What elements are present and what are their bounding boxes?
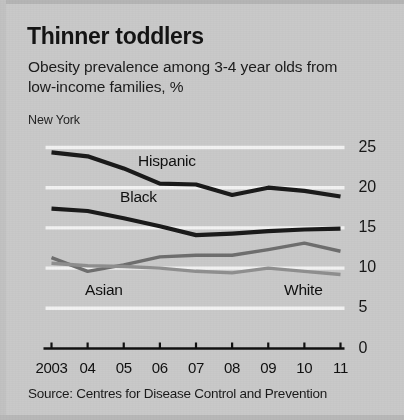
series-line-hispanic — [52, 152, 341, 196]
y-axis-tick-label: 0 — [359, 339, 368, 357]
chart-source: Source: Centres for Disease Control and … — [28, 386, 327, 401]
y-axis-tick-label: 10 — [359, 258, 376, 276]
series-line-black — [52, 209, 341, 236]
infographic-figure: Thinner toddlers Obesity prevalence amon… — [0, 0, 404, 420]
line-chart — [0, 0, 404, 420]
series-lines — [52, 152, 341, 274]
y-axis-tick-label: 15 — [359, 218, 376, 236]
series-label-black: Black — [120, 188, 157, 206]
x-axis-tick-label: 11 — [315, 359, 367, 376]
series-label-asian: Asian — [85, 281, 123, 299]
series-label-hispanic: Hispanic — [138, 152, 196, 170]
y-axis-tick-label: 20 — [359, 178, 376, 196]
y-axis-tick-label: 5 — [359, 298, 368, 316]
series-label-white: White — [284, 281, 323, 299]
y-axis-tick-label: 25 — [359, 138, 376, 156]
